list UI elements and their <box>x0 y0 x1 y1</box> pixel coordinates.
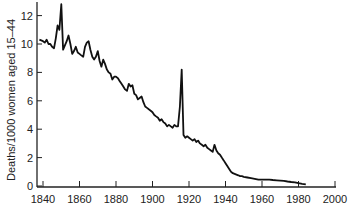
y-axis-label: Deaths/1000 women aged 15–44 <box>5 19 17 181</box>
axes: 1840186018801900192019401960198020000246… <box>21 2 347 205</box>
x-tick-label: 1860 <box>67 193 91 205</box>
data-line <box>39 4 305 184</box>
x-tick-label: 1980 <box>286 193 310 205</box>
x-tick-label: 1940 <box>213 193 237 205</box>
x-tick-label: 1920 <box>177 193 201 205</box>
x-tick-label: 1880 <box>104 193 128 205</box>
x-tick-label: 1840 <box>31 193 55 205</box>
x-tick-label: 1960 <box>250 193 274 205</box>
y-tick-label: 2 <box>27 152 33 164</box>
y-tick-label: 10 <box>21 38 33 50</box>
x-tick-label: 1900 <box>140 193 164 205</box>
y-tick-label: 4 <box>27 123 33 135</box>
x-tick-label: 2000 <box>323 193 347 205</box>
line-chart: 1840186018801900192019401960198020000246… <box>0 0 356 210</box>
y-tick-label: 6 <box>27 95 33 107</box>
y-tick-label: 8 <box>27 66 33 78</box>
y-tick-label: 0 <box>27 180 33 192</box>
y-tick-label: 12 <box>21 10 33 22</box>
maternal-mortality-chart: 1840186018801900192019401960198020000246… <box>0 0 356 210</box>
